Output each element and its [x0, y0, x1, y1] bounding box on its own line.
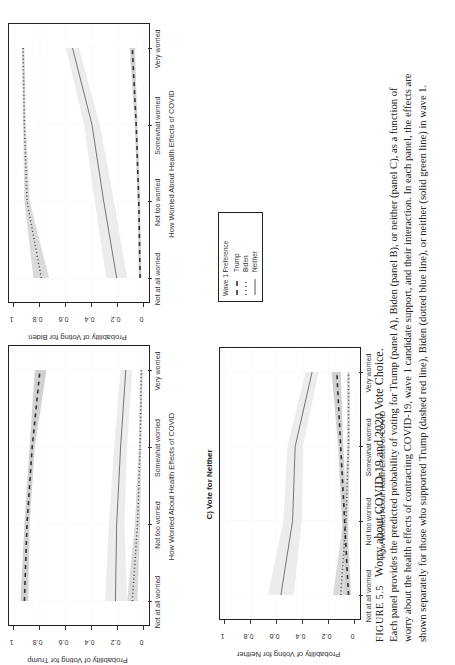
- y-tick-label: 0.8: [28, 639, 48, 646]
- panel-b-biden: 00.20.40.60.81Not at all worriedNot too …: [0, 9, 175, 329]
- y-tick-label: 0.6: [54, 316, 74, 323]
- caption-heading: FIGURE 5.5 Worry about COVID-19 and 2020…: [372, 10, 387, 642]
- x-tick-label: Not at all worried: [154, 239, 161, 319]
- caption-line: worry about the health effects of contra…: [401, 10, 415, 642]
- legend-item-neither: Neither: [250, 218, 259, 296]
- y-tick-label: 0.2: [106, 639, 126, 646]
- plot-svg: [220, 348, 360, 619]
- y-tick-label: 1: [2, 316, 22, 323]
- x-tick-label: Very worried: [154, 331, 161, 411]
- plot-area: [8, 23, 150, 303]
- x-tick-label: Very worried: [154, 9, 161, 89]
- caption-line: Each panel provides the predicted probab…: [387, 10, 401, 642]
- figure-label: FIGURE 5.5: [374, 585, 385, 642]
- y-tick-label: 0: [132, 639, 152, 646]
- x-tick-label: Somewhat worried: [154, 86, 161, 166]
- dashed-line-icon: [234, 278, 240, 296]
- x-tick-label: Not too worried: [365, 482, 372, 562]
- x-tick-label: Not too worried: [154, 485, 161, 565]
- y-axis-title: Probability of Voting for Trump: [8, 656, 148, 665]
- legend-item-trump: Trump: [232, 218, 241, 296]
- y-tick-label: 0: [132, 316, 152, 323]
- plot-area: [219, 347, 361, 620]
- x-tick-label: Not too worried: [154, 162, 161, 242]
- plot-area: [8, 345, 150, 626]
- x-tick-label: Very worried: [365, 333, 372, 413]
- x-tick-label: Somewhat worried: [365, 407, 372, 487]
- y-tick-label: 1: [2, 639, 22, 646]
- x-tick-label: Somewhat worried: [154, 408, 161, 488]
- x-tick-label: Not at all worried: [154, 562, 161, 642]
- plot-svg: [9, 24, 149, 302]
- y-axis-title: Probability of Voting for Biden: [8, 333, 148, 342]
- panel-c-neither: C) Vote for Neither00.20.40.60.81Not at …: [195, 334, 370, 654]
- y-tick-label: 0.2: [317, 633, 337, 640]
- x-axis-title: How Worried About Health Effects of COVI…: [167, 25, 176, 303]
- y-tick-label: 0.4: [291, 633, 311, 640]
- solid-line-icon: [252, 278, 258, 296]
- figure-caption: FIGURE 5.5 Worry about COVID-19 and 2020…: [372, 10, 430, 642]
- panel-a-trump: 00.20.40.60.81Not at all worriedNot too …: [0, 334, 175, 654]
- y-tick-label: 1: [213, 633, 233, 640]
- legend-item-biden: Biden: [241, 218, 250, 296]
- figure-title: Worry about COVID-19 and 2020 Vote Choic…: [372, 348, 386, 577]
- x-tick-label: Not at all worried: [365, 556, 372, 636]
- y-tick-label: 0: [343, 633, 363, 640]
- y-tick-label: 0.6: [54, 639, 74, 646]
- y-tick-label: 0.4: [80, 639, 100, 646]
- y-tick-label: 0.8: [28, 316, 48, 323]
- y-tick-label: 0.8: [239, 633, 259, 640]
- y-tick-label: 0.4: [80, 316, 100, 323]
- y-tick-label: 0.2: [106, 316, 126, 323]
- x-axis-title: How Worried About Health Effects of COVI…: [167, 347, 176, 626]
- y-axis-title: Probability of Voting for Neither: [219, 650, 359, 659]
- y-tick-label: 0.6: [265, 633, 285, 640]
- legend-title: Wave 1 Preference: [222, 218, 229, 296]
- dotted-line-icon: [243, 278, 249, 296]
- legend: Wave 1 Preference Trump Biden Neither: [218, 212, 263, 302]
- panel-title: C) Vote for Neither: [205, 349, 214, 620]
- caption-line: shown separately for those who supported…: [416, 10, 430, 642]
- plot-svg: [9, 346, 149, 625]
